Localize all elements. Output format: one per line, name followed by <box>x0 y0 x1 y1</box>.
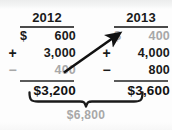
column-total-row: $3,600 <box>98 82 170 100</box>
row-amount: 600 <box>20 28 76 45</box>
row-operator: − <box>100 62 113 79</box>
amount-row-muted: − 400 <box>4 62 76 79</box>
amount-row: + 3,000 <box>4 45 76 62</box>
column-2012: 2012 $ 600 + 3,000 − 400 $3,200 <box>4 10 76 100</box>
row-amount: 4,000 <box>114 45 170 62</box>
row-amount: 400 <box>20 62 76 79</box>
row-operator: + <box>6 45 19 62</box>
row-operator: + <box>100 45 113 62</box>
column-2013: 2013 $ 400 + 4,000 − 800 $3,600 <box>98 10 170 100</box>
column-year-header: 2012 <box>4 10 76 25</box>
amount-row-muted: $ 400 <box>98 28 170 45</box>
row-operator: − <box>6 62 19 79</box>
amount-row: − 800 <box>98 62 170 79</box>
column-year-header: 2013 <box>98 10 170 25</box>
row-amount: 800 <box>114 62 170 79</box>
scan-band-bottom <box>0 122 172 130</box>
row-amount: 3,000 <box>20 45 76 62</box>
grand-total-label: $6,800 <box>0 108 172 122</box>
column-total-row: $3,200 <box>4 82 76 100</box>
amount-row: $ 600 <box>4 28 76 45</box>
amount-row: + 4,000 <box>98 45 170 62</box>
scan-band-top <box>0 0 172 9</box>
row-amount: 400 <box>114 28 170 45</box>
arithmetic-figure: 2012 $ 600 + 3,000 − 400 $3,200 2013 $ <box>0 0 172 130</box>
column-total: $3,200 <box>20 82 76 100</box>
column-total: $3,600 <box>114 82 170 100</box>
